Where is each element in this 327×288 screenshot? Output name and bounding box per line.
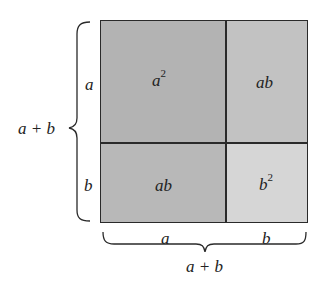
binomial-square-diagram: a2 ab ab b2 a b a + b a b a + b	[0, 0, 327, 288]
braces	[0, 0, 327, 288]
left-brace-icon	[69, 22, 90, 221]
bottom-brace-icon	[103, 232, 306, 252]
